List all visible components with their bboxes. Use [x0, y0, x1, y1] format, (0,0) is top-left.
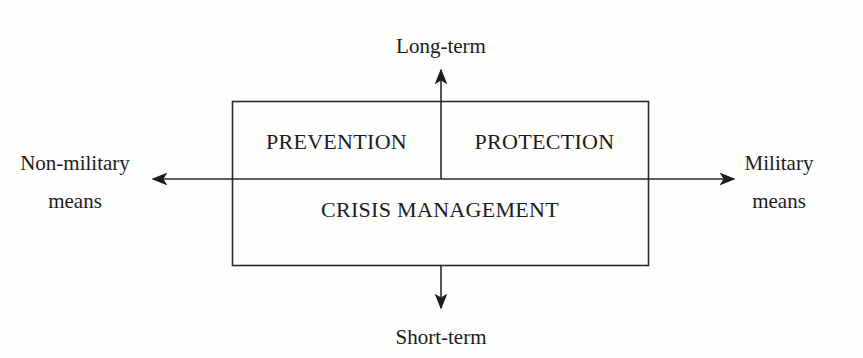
- axis-label-military-line2: means: [714, 189, 844, 213]
- axis-label-non-military-line2: means: [0, 189, 150, 213]
- region-protection: PROTECTION: [441, 130, 648, 154]
- axis-label-long-term: Long-term: [341, 34, 541, 58]
- axis-label-non-military-line1: Non-military: [0, 151, 150, 175]
- axis-label-military-line1: Military: [714, 151, 844, 175]
- axis-label-short-term: Short-term: [341, 325, 541, 349]
- region-crisis-management: CRISIS MANAGEMENT: [232, 198, 648, 222]
- region-prevention: PREVENTION: [232, 130, 441, 154]
